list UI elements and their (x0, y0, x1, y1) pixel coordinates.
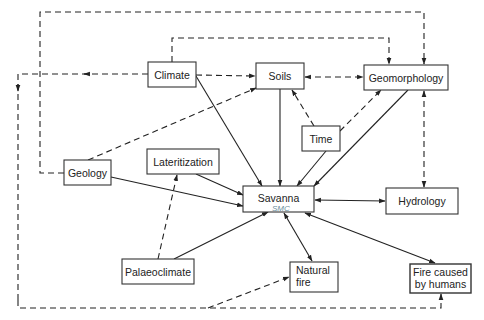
edge-geology-geomorphology-outer (40, 12, 424, 173)
handwritten-annotation: SMC (272, 204, 290, 213)
node-geomorphology: Geomorphology (364, 65, 448, 90)
node-label: Lateritization (153, 156, 213, 168)
node-label: Time (310, 133, 333, 145)
node-soils: Soils (256, 63, 304, 89)
edge-bottom-natural-fire (208, 277, 289, 308)
edge-palaeoclimate-savanna (174, 212, 268, 259)
edge-savanna-fire-humans (305, 213, 435, 263)
edge-lateritization-savanna (196, 174, 243, 195)
node-label-line-1: Natural (296, 264, 330, 276)
node-label: Hydrology (398, 195, 446, 207)
edge-time-savanna (297, 151, 326, 186)
savanna-factors-diagram: Climate Soils Geomorphology Time Laterit… (0, 0, 484, 320)
node-hydrology: Hydrology (386, 188, 458, 214)
node-label-line-2: by humans (415, 278, 466, 290)
node-time: Time (302, 126, 340, 151)
edge-climate-soils (196, 75, 255, 76)
edge-geology-savanna (111, 177, 243, 206)
edge-savanna-hydrology (315, 200, 385, 201)
edge-bottom-line (18, 294, 441, 308)
edge-climate-geomorphology (172, 38, 389, 64)
node-label: Climate (154, 69, 190, 81)
edge-time-soils (292, 90, 314, 126)
edge-savanna-natural-fire (284, 213, 312, 261)
edge-time-geomorphology (340, 90, 381, 131)
node-label: Geomorphology (369, 72, 444, 84)
node-fire-caused-by-humans: Fire caused by humans (410, 264, 471, 293)
node-label: Geology (68, 167, 108, 179)
node-label-line-2: fire (296, 276, 311, 288)
node-lateritization: Lateritization (147, 149, 219, 174)
node-natural-fire: Natural fire (290, 262, 338, 292)
node-savanna: Savanna SMC (243, 186, 314, 213)
node-label: Palaeoclimate (125, 266, 191, 278)
node-palaeoclimate: Palaeoclimate (122, 259, 194, 284)
node-label: Savanna (258, 192, 300, 204)
node-label-line-1: Fire caused (413, 266, 468, 278)
node-climate: Climate (148, 62, 196, 87)
node-label: Soils (269, 70, 292, 82)
node-geology: Geology (64, 160, 111, 185)
